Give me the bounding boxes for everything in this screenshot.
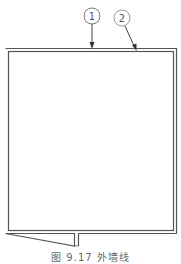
arrow-diagonal-icon bbox=[132, 44, 137, 52]
figure-caption: 图 9.17 外墙线 bbox=[0, 249, 181, 264]
callout-1-label: 1 bbox=[89, 11, 95, 22]
callout-1: 1 bbox=[84, 8, 100, 49]
inner-wall-line bbox=[9, 52, 174, 231]
callout-2-label: 2 bbox=[119, 13, 125, 24]
outer-wall-line bbox=[6, 49, 177, 247]
callout-2: 2 bbox=[114, 10, 137, 51]
